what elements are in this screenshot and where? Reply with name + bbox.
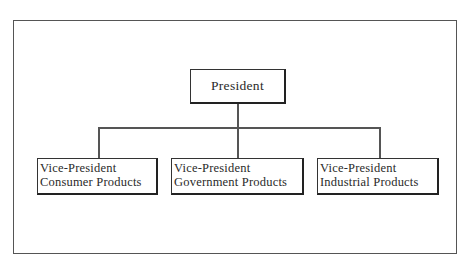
diagram-frame — [13, 20, 457, 254]
child-connector-3 — [379, 127, 381, 158]
node-title: Vice-President — [320, 161, 437, 175]
node-subtitle: Government Products — [174, 175, 302, 189]
child-connector-1 — [98, 127, 100, 158]
node-subtitle: Industrial Products — [320, 175, 437, 189]
node-title: Vice-President — [174, 161, 302, 175]
president-label: President — [211, 78, 264, 94]
horizontal-connector — [98, 127, 380, 129]
vp-government-node: Vice-President Government Products — [171, 158, 304, 195]
node-title: Vice-President — [40, 161, 156, 175]
vp-consumer-node: Vice-President Consumer Products — [37, 158, 158, 195]
vp-industrial-node: Vice-President Industrial Products — [317, 158, 439, 195]
president-node: President — [190, 69, 286, 104]
root-connector — [237, 103, 239, 129]
node-subtitle: Consumer Products — [40, 175, 156, 189]
child-connector-2 — [237, 127, 239, 158]
